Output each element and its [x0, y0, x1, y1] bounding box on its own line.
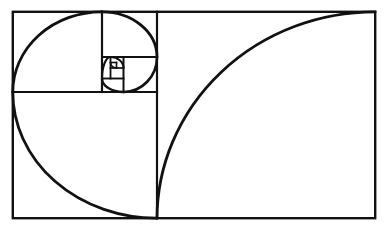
- figure-background: [0, 0, 386, 231]
- fibonacci-spiral-figure: Fibonacci Spiral (Golden Spiral) in Gold…: [0, 0, 386, 231]
- fibonacci-spiral-canvas: Fibonacci Spiral (Golden Spiral) in Gold…: [0, 0, 386, 231]
